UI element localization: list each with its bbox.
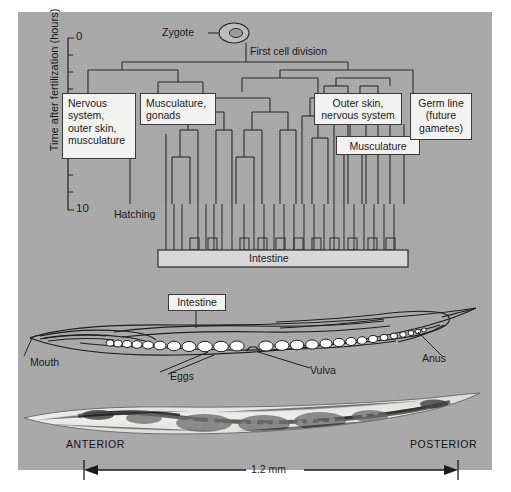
fate-box-nervous-system: Nervous system, outer skin, musculature (62, 93, 136, 159)
zygote-cell (219, 23, 249, 43)
intestine-bar-label: Intestine (249, 252, 289, 264)
y-axis-tick-10: 10 (76, 202, 89, 214)
anatomy-mouth-label: Mouth (30, 356, 59, 368)
figure-root: 0 10 Time after fertilization (hours) Zy… (0, 0, 511, 492)
zygote-label: Zygote (162, 26, 194, 38)
fate-box-musculature-gonads: Musculature, gonads (140, 93, 216, 125)
mouth-leader (24, 338, 32, 356)
anatomy-vulva-label: Vulva (310, 364, 336, 376)
fate-box-germ-line: Germ line (future gametes) (410, 93, 472, 140)
fate-box-outer-skin-nervous: Outer skin, nervous system (314, 93, 402, 125)
anatomy-anus-label: Anus (422, 352, 446, 364)
diagram-panel: 0 10 Time after fertilization (hours) Zy… (18, 12, 492, 470)
vulva-leader (258, 352, 310, 368)
anatomy-intestine-box: Intestine (168, 294, 226, 311)
first-cell-division-label: First cell division (250, 45, 327, 57)
hatching-label: Hatching (114, 208, 155, 220)
scale-length-label: 1.2 mm (251, 463, 286, 475)
worm-schematic-svg (18, 298, 492, 390)
y-axis-title: Time after fertilization (hours) (48, 0, 60, 160)
posterior-label: POSTERIOR (410, 438, 477, 450)
y-axis-tick-0: 0 (76, 30, 82, 42)
anatomy-eggs-label: Eggs (170, 370, 194, 382)
anterior-label: ANTERIOR (66, 438, 125, 450)
fate-box-musculature: Musculature (336, 136, 420, 155)
